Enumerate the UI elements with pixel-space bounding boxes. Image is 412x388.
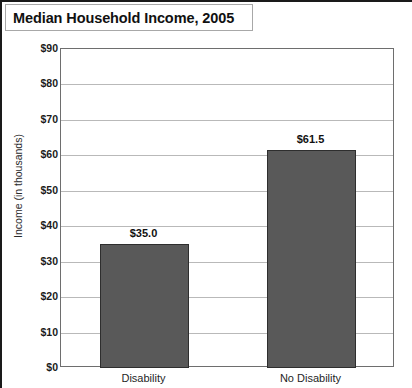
y-axis-tick-label: $30 (2, 255, 58, 267)
page-title: Median Household Income, 2005 (6, 10, 234, 26)
bar-value-label: $35.0 (79, 227, 208, 239)
y-axis-tick-label: $90 (2, 42, 58, 54)
x-axis-category-label: No Disability (227, 372, 394, 384)
chart-figure: Median Household Income, 2005 $0$10$20$3… (0, 0, 412, 388)
bar (100, 244, 189, 368)
x-axis-category-label: Disability (60, 372, 227, 384)
y-axis-tick-label: $50 (2, 184, 58, 196)
bar-value-label: $61.5 (246, 133, 375, 145)
y-axis-tick-label: $10 (2, 326, 58, 338)
y-axis-tick-label: $20 (2, 290, 58, 302)
y-axis-title: Income (in thousands) (12, 86, 24, 286)
y-axis-tick-label: $80 (2, 77, 58, 89)
y-axis-tick-label: $40 (2, 219, 58, 231)
y-axis-tick-label: $60 (2, 148, 58, 160)
y-axis-tick-label: $0 (2, 361, 58, 373)
gridline (61, 120, 393, 121)
gridline (61, 84, 393, 85)
y-axis-tick-labels: $0$10$20$30$40$50$60$70$80$90 (0, 48, 58, 367)
plot-area (60, 48, 394, 367)
bar (267, 150, 356, 368)
figure-top-border (0, 0, 412, 2)
y-axis-tick-label: $70 (2, 113, 58, 125)
chart-title-box: Median Household Income, 2005 (5, 4, 253, 31)
